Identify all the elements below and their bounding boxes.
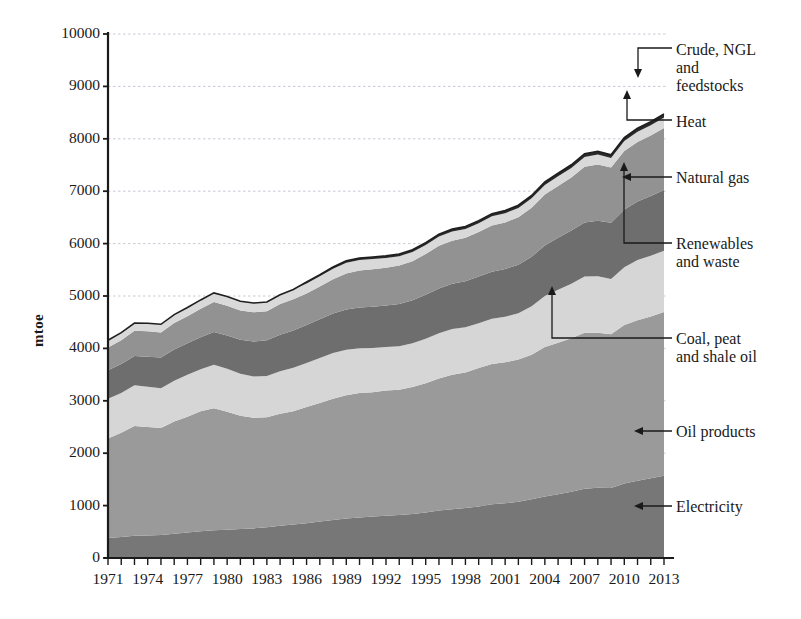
x-tick-label: 2013 <box>634 570 694 588</box>
y-tick-label: 3000 <box>20 391 100 409</box>
y-tick-label: 1000 <box>20 496 100 514</box>
annotation-oil-products: Oil products <box>676 423 801 441</box>
y-tick-label: 9000 <box>20 76 100 94</box>
chart-canvas: mtoe Crude, NGL and feedstocks Heat Natu… <box>0 0 801 619</box>
annotation-renewables: Renewables and waste <box>676 235 801 271</box>
y-tick-label: 10000 <box>20 24 100 42</box>
callout-heat <box>623 90 672 120</box>
y-tick-label: 6000 <box>20 234 100 252</box>
y-tick-label: 0 <box>20 548 100 566</box>
annotation-electricity: Electricity <box>676 498 801 516</box>
y-tick-label: 8000 <box>20 129 100 147</box>
annotation-crude: Crude, NGL and feedstocks <box>676 41 796 95</box>
y-tick-label: 4000 <box>20 338 100 356</box>
annotation-heat: Heat <box>676 113 796 131</box>
y-tick-label: 7000 <box>20 181 100 199</box>
area-series-group <box>108 114 664 558</box>
y-tick-label: 2000 <box>20 443 100 461</box>
annotation-natural-gas: Natural gas <box>676 169 801 187</box>
y-tick-label: 5000 <box>20 286 100 304</box>
annotation-coal: Coal, peat and shale oil <box>676 330 801 366</box>
callout-crude <box>634 48 672 78</box>
